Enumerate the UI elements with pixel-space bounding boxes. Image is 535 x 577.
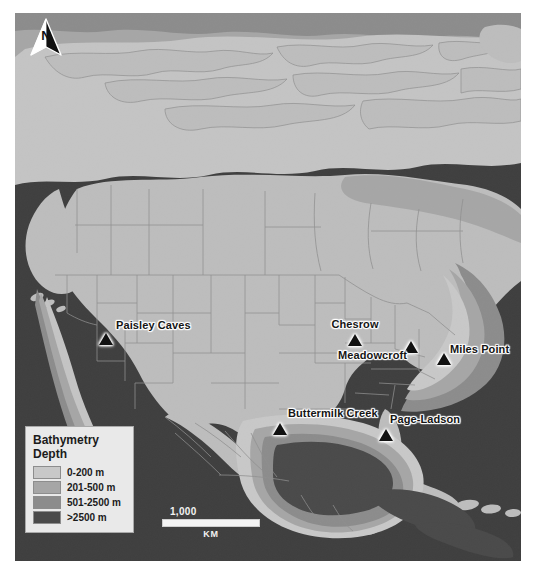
site-label: Meadowcroft (338, 349, 407, 361)
north-arrow-label: N (41, 28, 50, 43)
legend-label: 501-2500 m (67, 497, 121, 508)
scale-bar: 1,000 KM (162, 506, 260, 539)
scale-bar-track (162, 519, 260, 527)
north-arrow-icon: N (29, 16, 63, 58)
site-label: Miles Point (450, 343, 509, 355)
legend-label: >2500 m (67, 512, 107, 523)
legend-label: 0-200 m (67, 467, 104, 478)
triangle-icon (437, 353, 451, 365)
map-page: N Paisley Caves Chesrow Meadowcroft Mile… (0, 0, 535, 577)
triangle-icon (99, 333, 113, 345)
site-label: Buttermilk Creek (288, 407, 378, 419)
map-figure[interactable]: N Paisley Caves Chesrow Meadowcroft Mile… (15, 13, 521, 561)
legend-row: 201-500 m (33, 480, 126, 494)
bathymetry-legend: Bathymetry Depth 0-200 m 201-500 m 501-2… (25, 426, 134, 533)
scale-bar-value: 1,000 (162, 506, 260, 517)
legend-swatch-over-2500 (33, 511, 61, 524)
site-label: Paisley Caves (116, 319, 191, 331)
legend-row: 0-200 m (33, 465, 126, 479)
scale-bar-unit: KM (162, 529, 260, 539)
site-label: Chesrow (331, 318, 378, 330)
legend-row: 501-2500 m (33, 495, 126, 509)
legend-rows: 0-200 m 201-500 m 501-2500 m >2500 m (33, 465, 126, 524)
legend-label: 201-500 m (67, 482, 115, 493)
triangle-icon (348, 334, 362, 346)
legend-title-line-2: Depth (33, 447, 126, 461)
triangle-icon (379, 429, 393, 441)
legend-swatch-501-2500 (33, 496, 61, 509)
legend-row: >2500 m (33, 510, 126, 524)
legend-swatch-0-200 (33, 466, 61, 479)
site-label: Page-Ladson (390, 413, 460, 425)
triangle-icon (273, 423, 287, 435)
legend-title-line-1: Bathymetry (33, 433, 126, 447)
legend-swatch-201-500 (33, 481, 61, 494)
